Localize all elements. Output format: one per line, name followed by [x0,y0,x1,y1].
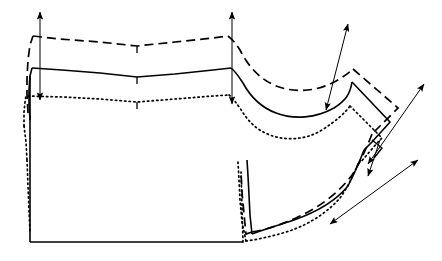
pattern-canvas [0,0,442,261]
pattern-grading-diagram [0,0,442,261]
